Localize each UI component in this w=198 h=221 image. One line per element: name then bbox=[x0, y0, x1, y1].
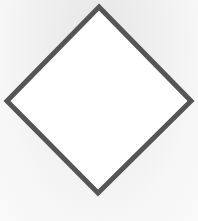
diamond-shape bbox=[7, 7, 191, 193]
diagram-canvas bbox=[0, 0, 198, 221]
diamond-diagram bbox=[0, 0, 198, 221]
